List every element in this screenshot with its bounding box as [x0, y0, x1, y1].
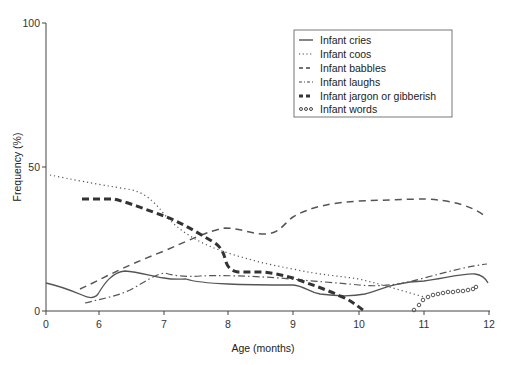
y-tick-label: 50	[28, 161, 40, 173]
x-tick-label: 12	[483, 318, 495, 330]
line-chart: 100 50 0 0 6 7 8 9 10 11 12 Age (months)…	[0, 0, 511, 365]
plot-area	[46, 175, 488, 312]
x-tick-label: 0	[43, 318, 49, 330]
legend-item-jargon: Infant jargon or gibberish	[299, 90, 436, 102]
series-infant-words	[412, 285, 478, 312]
x-tick-label: 9	[290, 318, 296, 330]
legend: Infant cries Infant coos Infant babbles …	[294, 30, 452, 117]
series-infant-coos	[50, 175, 424, 297]
x-tick-label: 10	[353, 318, 365, 330]
y-tick-label: 0	[34, 305, 40, 317]
x-ticks: 0 6 7 8 9 10 11 12	[43, 311, 495, 330]
y-ticks: 100 50 0	[22, 17, 46, 317]
x-tick-label: 11	[419, 318, 430, 330]
svg-text:Infant coos: Infant coos	[320, 48, 371, 60]
svg-text:Infant jargon or gibberish: Infant jargon or gibberish	[320, 90, 436, 102]
series-infant-cries	[46, 271, 488, 298]
series-infant-jargon	[82, 199, 363, 310]
svg-text:Infant laughs: Infant laughs	[320, 76, 380, 88]
x-tick-label: 8	[225, 318, 231, 330]
x-tick-label: 6	[96, 318, 102, 330]
x-axis-title: Age (months)	[231, 342, 294, 354]
svg-text:Infant babbles: Infant babbles	[320, 62, 386, 74]
y-tick-label: 100	[22, 17, 40, 29]
svg-text:Infant cries: Infant cries	[320, 34, 371, 46]
y-axis-title: Frequency (%)	[11, 133, 23, 202]
svg-text:Infant words: Infant words	[320, 103, 377, 115]
x-tick-label: 7	[161, 318, 167, 330]
